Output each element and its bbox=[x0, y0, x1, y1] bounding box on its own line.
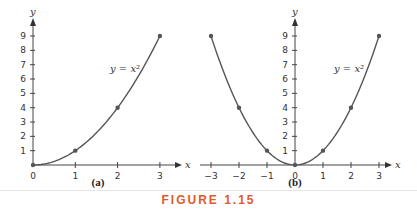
chart-panel-b: xy123456789−3−2−10123y = x²(b) bbox=[200, 6, 401, 189]
data-point bbox=[377, 34, 381, 38]
y-tick-label: 4 bbox=[282, 103, 288, 113]
x-tick-label: 2 bbox=[348, 171, 354, 181]
data-point bbox=[265, 148, 269, 152]
chart-panel-a: xy1234567890123y = x²(a) bbox=[20, 6, 191, 189]
x-tick-label: 3 bbox=[376, 171, 382, 181]
y-axis-arrow-icon bbox=[292, 18, 298, 26]
y-tick-label: 9 bbox=[282, 31, 288, 41]
x-tick-label: 2 bbox=[115, 171, 121, 181]
y-tick-label: 7 bbox=[282, 60, 288, 70]
data-point bbox=[158, 34, 162, 38]
equation-label: y = x² bbox=[333, 63, 364, 74]
figure-canvas: xy1234567890123y = x²(a)xy123456789−3−2−… bbox=[0, 0, 417, 212]
figure-caption: FIGURE 1.15 bbox=[0, 193, 417, 207]
y-tick-label: 3 bbox=[20, 117, 26, 127]
y-tick-label: 8 bbox=[20, 45, 26, 55]
x-axis-label: x bbox=[395, 159, 401, 170]
parabola-curve bbox=[33, 36, 160, 165]
y-axis-label: y bbox=[29, 6, 36, 17]
y-tick-label: 5 bbox=[20, 88, 26, 98]
y-tick-label: 3 bbox=[282, 117, 288, 127]
y-tick-label: 2 bbox=[282, 131, 288, 141]
x-axis-label: x bbox=[185, 159, 191, 170]
x-tick-label: 3 bbox=[157, 171, 163, 181]
data-point bbox=[237, 105, 241, 109]
x-axis-arrow-icon bbox=[175, 162, 182, 168]
data-point bbox=[73, 148, 77, 152]
x-tick-label: 1 bbox=[72, 171, 78, 181]
x-axis-arrow-icon bbox=[385, 162, 392, 168]
x-tick-label: −3 bbox=[204, 171, 217, 181]
x-tick-label: −1 bbox=[260, 171, 273, 181]
y-tick-label: 1 bbox=[20, 146, 26, 156]
y-tick-label: 6 bbox=[282, 74, 288, 84]
x-tick-label: 1 bbox=[320, 171, 326, 181]
data-point bbox=[293, 163, 297, 167]
y-tick-label: 7 bbox=[20, 60, 26, 70]
y-tick-label: 8 bbox=[282, 45, 288, 55]
y-tick-label: 1 bbox=[282, 146, 288, 156]
data-point bbox=[115, 105, 119, 109]
y-tick-label: 9 bbox=[20, 31, 26, 41]
x-tick-label: −2 bbox=[232, 171, 245, 181]
y-tick-label: 4 bbox=[20, 103, 26, 113]
y-axis-label: y bbox=[291, 6, 298, 17]
divider bbox=[0, 190, 417, 191]
data-point bbox=[209, 34, 213, 38]
y-tick-label: 6 bbox=[20, 74, 26, 84]
data-point bbox=[349, 105, 353, 109]
subfigure-label: (b) bbox=[288, 176, 302, 189]
y-axis-arrow-icon bbox=[30, 18, 36, 26]
y-tick-label: 5 bbox=[282, 88, 288, 98]
subfigure-label: (a) bbox=[92, 176, 105, 189]
equation-label: y = x² bbox=[109, 63, 140, 74]
y-tick-label: 2 bbox=[20, 131, 26, 141]
data-point bbox=[31, 163, 35, 167]
x-tick-label: 0 bbox=[30, 171, 36, 181]
data-point bbox=[321, 148, 325, 152]
